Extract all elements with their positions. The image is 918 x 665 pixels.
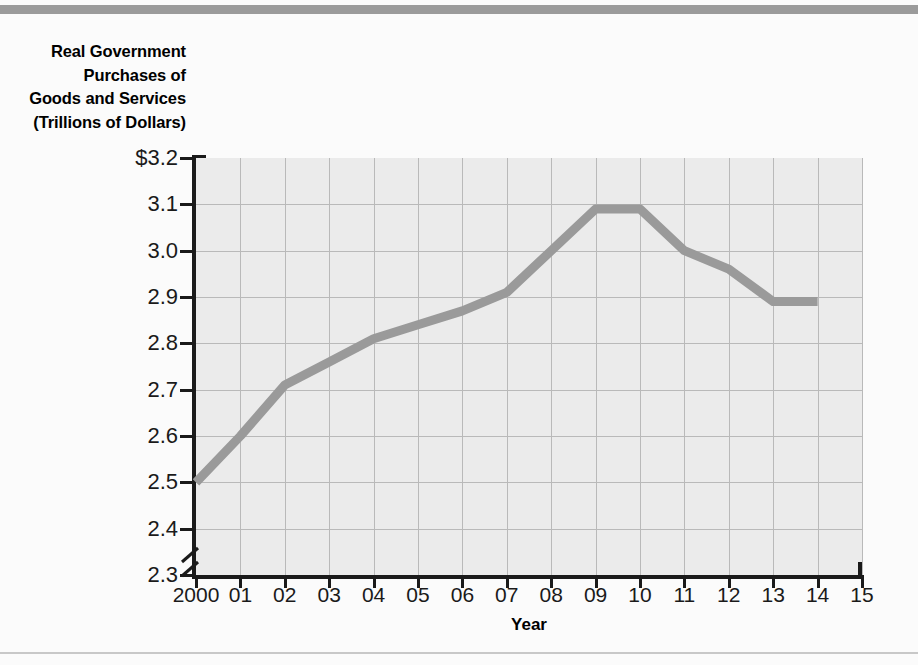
y-axis-tick-label: 2.6 — [58, 425, 178, 447]
chart-figure: Real Government Purchases of Goods and S… — [0, 0, 918, 665]
y-axis-title-line-1: Real Government — [0, 40, 186, 64]
y-axis-title-line-3: Goods and Services — [0, 87, 186, 111]
gridline-vertical — [862, 158, 863, 575]
top-decorative-band — [0, 5, 918, 14]
y-axis-tick-label: 2.8 — [58, 332, 178, 354]
y-axis-tick-label: 2.7 — [58, 379, 178, 401]
y-axis-tick-label: 2.3 — [58, 564, 178, 586]
y-axis-tick-label: 2.4 — [58, 518, 178, 540]
y-axis-tick-label: 3.1 — [58, 193, 178, 215]
x-axis-tick-label: 15 — [834, 584, 890, 606]
series-line-real-government-purchases — [196, 209, 818, 482]
y-axis-title-line-4: (Trillions of Dollars) — [0, 111, 186, 135]
axis-break-icon — [178, 546, 212, 580]
y-axis-tick-label: 3.0 — [58, 240, 178, 262]
y-axis-title-line-2: Purchases of — [0, 64, 186, 88]
plot-area — [196, 158, 862, 575]
bottom-divider-rule — [0, 652, 918, 654]
x-axis-title: Year — [196, 615, 862, 635]
y-axis-title: Real Government Purchases of Goods and S… — [0, 40, 186, 134]
x-axis-line — [192, 575, 862, 579]
y-axis-tick-label: $3.2 — [58, 147, 178, 169]
y-axis-tick-label: 2.5 — [58, 471, 178, 493]
series-line-layer — [196, 158, 862, 575]
y-axis-tick-label: 2.9 — [58, 286, 178, 308]
